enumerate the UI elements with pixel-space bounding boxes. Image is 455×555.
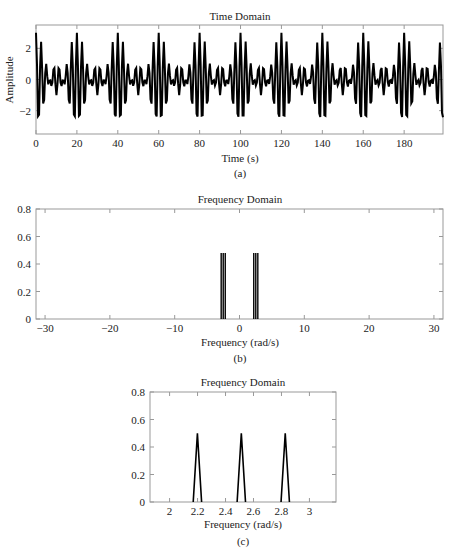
title-time-domain: Time Domain [209,10,271,22]
x-tick-label: 40 [112,137,124,149]
x-tick-label: 100 [232,137,249,149]
y-tick-label: 0.6 [131,414,145,426]
x-tick-label: 2.8 [275,505,289,517]
axis-ticks-freq-zoom: 22.22.42.62.8300.20.40.60.8 [131,386,336,517]
panel-label-b: (b) [234,352,247,365]
x-tick-label: 120 [273,137,290,149]
title-frequency-domain-b: Frequency Domain [198,193,283,205]
y-tick-label: 0 [140,496,146,508]
x-tick-label: 3 [307,505,313,517]
y-tick-label: 0.4 [17,258,31,270]
y-tick-label: 0.8 [131,386,145,398]
signal-line [36,33,443,117]
x-tick-label: 180 [396,137,413,149]
spectrum-lines [221,253,258,319]
y-tick-label: −2 [19,105,31,117]
x-tick-label: 0 [33,137,39,149]
panel-frequency-domain-full: Frequency Domain −30−20−10010203000.20.4… [17,193,443,365]
spectrum-peaks [193,433,289,502]
figure: Time Domain 020406080100120140160180−202… [0,0,455,555]
xlabel-frequency-b: Frequency (rad/s) [201,336,279,349]
x-tick-label: 140 [314,137,331,149]
xlabel-frequency-c: Frequency (rad/s) [204,518,282,531]
x-tick-label: 2 [167,505,173,517]
x-tick-label: 2.6 [247,505,261,517]
axis-ticks-freq-full: −30−20−10010203000.20.40.60.8 [17,203,443,334]
y-tick-label: 0 [26,74,32,86]
x-tick-label: 20 [71,137,83,149]
x-tick-label: 0 [237,322,243,334]
x-tick-label: 60 [153,137,165,149]
x-tick-label: 160 [355,137,372,149]
y-tick-label: 0.6 [17,231,31,243]
x-tick-label: 2.4 [219,505,233,517]
panel-time-domain: Time Domain 020406080100120140160180−202… [3,10,443,180]
x-tick-label: −10 [166,322,184,334]
panel-frequency-domain-zoom: Frequency Domain 22.22.42.62.8300.20.40.… [131,376,336,548]
y-tick-label: 0.4 [131,441,145,453]
x-tick-label: 2.2 [191,505,205,517]
x-tick-label: 10 [299,322,311,334]
ylabel-amplitude: Amplitude [3,56,15,103]
y-tick-label: 0.2 [17,286,31,298]
axes-box-freq-full [36,209,443,319]
y-tick-label: 0 [26,313,32,325]
x-tick-label: −20 [101,322,119,334]
y-tick-label: 0.2 [131,469,145,481]
panel-label-c: (c) [237,535,250,548]
axes-box-freq-zoom [150,392,336,502]
title-frequency-domain-c: Frequency Domain [201,376,286,388]
xlabel-time: Time (s) [221,152,259,165]
x-tick-label: 20 [364,322,376,334]
x-tick-label: 80 [194,137,206,149]
y-tick-label: 2 [26,42,32,54]
y-tick-label: 0.8 [17,203,31,215]
x-tick-label: −30 [36,322,54,334]
panel-label-a: (a) [234,167,247,180]
x-tick-label: 30 [428,322,440,334]
